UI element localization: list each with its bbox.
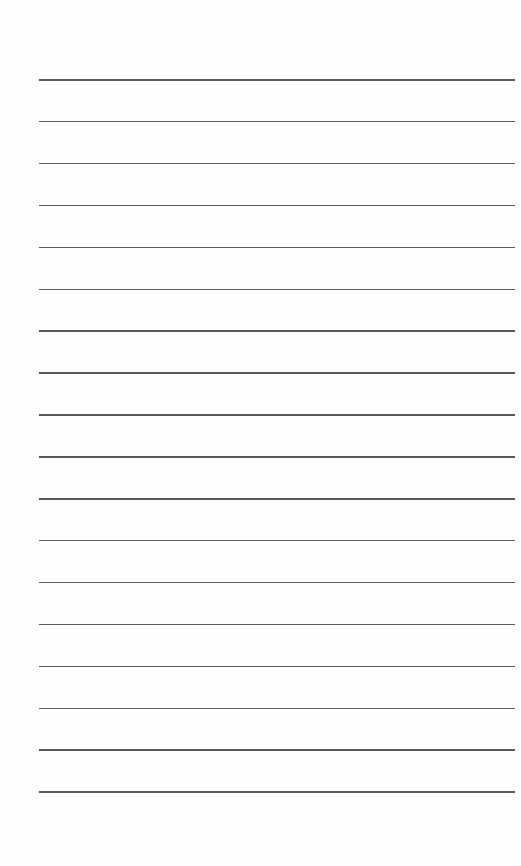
ruled-line (39, 330, 515, 332)
ruled-line (39, 708, 515, 710)
ruled-line (39, 163, 515, 165)
ruled-line (39, 247, 515, 249)
lined-page (0, 0, 521, 866)
ruled-line (39, 414, 515, 416)
ruled-line (39, 79, 515, 81)
ruled-line (39, 540, 515, 542)
ruled-line (39, 624, 515, 626)
ruled-line (39, 582, 515, 584)
ruled-line (39, 372, 515, 374)
ruled-line (39, 456, 515, 458)
ruled-line (39, 498, 515, 500)
ruled-line (39, 205, 515, 207)
ruled-line (39, 121, 515, 123)
ruled-line (39, 666, 515, 668)
ruled-line (39, 289, 515, 291)
ruled-line (39, 749, 515, 751)
ruled-line (39, 791, 515, 793)
